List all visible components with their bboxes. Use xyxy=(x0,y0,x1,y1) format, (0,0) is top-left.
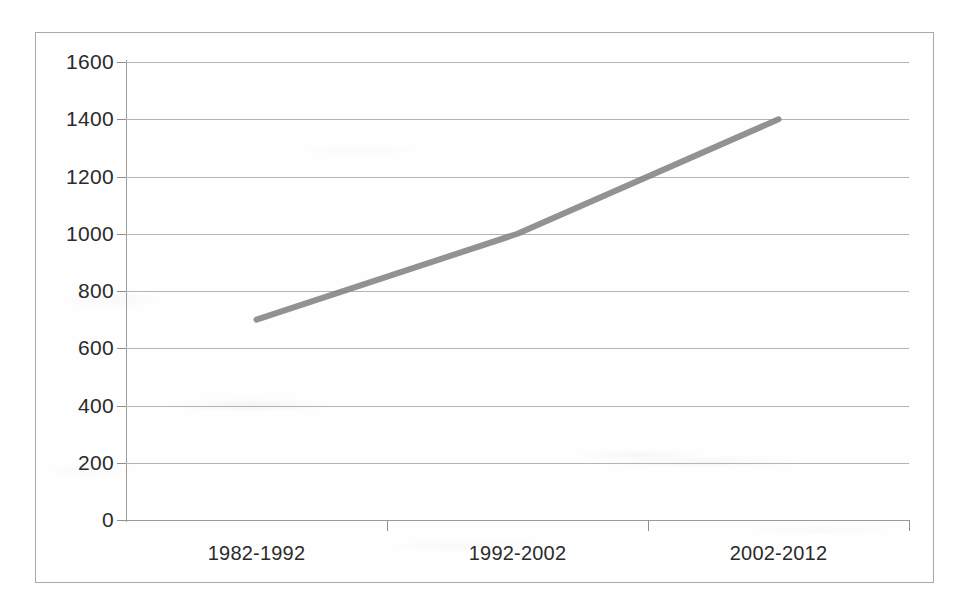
y-axis-tick-label: 1000 xyxy=(66,222,114,246)
y-tick-1400 xyxy=(117,119,126,120)
y-tick-800 xyxy=(117,291,126,292)
x-axis-tick-label: 2002-2012 xyxy=(730,542,827,565)
y-axis-tick-label: 400 xyxy=(78,394,114,418)
y-tick-200 xyxy=(117,463,126,464)
plot-area: 02004006008001000120014001600 1982-19921… xyxy=(126,62,909,520)
x-tick-boundary xyxy=(387,520,388,531)
x-axis-tick-label: 1992-2002 xyxy=(469,542,566,565)
y-axis-tick-label: 1600 xyxy=(66,50,114,74)
data-line-series-1 xyxy=(257,119,779,319)
y-tick-1000 xyxy=(117,234,126,235)
gridline-0 xyxy=(126,520,909,521)
y-tick-600 xyxy=(117,348,126,349)
y-axis-tick-label: 800 xyxy=(78,279,114,303)
chart-frame-border: 02004006008001000120014001600 1982-19921… xyxy=(35,32,934,583)
y-tick-1600 xyxy=(117,62,126,63)
y-axis-tick-label: 1200 xyxy=(66,165,114,189)
y-tick-1200 xyxy=(117,177,126,178)
x-axis-tick-label: 1982-1992 xyxy=(208,542,305,565)
x-tick-boundary xyxy=(648,520,649,531)
y-axis-tick-label: 200 xyxy=(78,451,114,475)
scanned-chart-page: 02004006008001000120014001600 1982-19921… xyxy=(0,0,971,615)
x-tick-boundary xyxy=(909,520,910,531)
series-line-layer xyxy=(126,62,909,520)
y-tick-400 xyxy=(117,406,126,407)
y-axis-tick-label: 0 xyxy=(102,508,114,532)
y-axis-tick-label: 600 xyxy=(78,336,114,360)
y-axis-tick-label: 1400 xyxy=(66,107,114,131)
y-tick-0 xyxy=(117,520,126,521)
